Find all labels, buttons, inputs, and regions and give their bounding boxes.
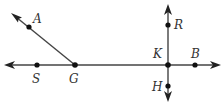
point-b — [192, 62, 197, 67]
point-a — [26, 24, 31, 29]
geometry-diagram: A S G K B R H — [0, 0, 224, 106]
label-s: S — [32, 72, 40, 86]
label-a: A — [32, 12, 42, 26]
point-h — [165, 83, 170, 88]
label-g: G — [69, 72, 79, 86]
point-k — [165, 62, 171, 68]
point-s — [34, 62, 39, 67]
point-r — [165, 22, 170, 27]
label-b: B — [190, 47, 200, 61]
label-h: H — [151, 80, 163, 94]
label-r: R — [173, 18, 183, 32]
label-k: K — [152, 47, 163, 61]
point-g — [72, 62, 78, 68]
ray-ga — [11, 13, 75, 65]
